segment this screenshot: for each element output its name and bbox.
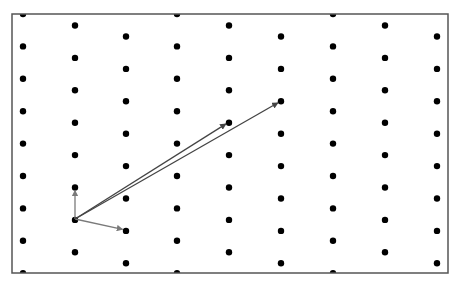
lattice-point [278,260,284,266]
lattice-point [123,66,129,72]
lattice-point [434,66,440,72]
plot-frame [12,14,448,273]
lattice-point [72,120,78,126]
lattice-point [330,108,336,114]
lattice-point [174,43,180,49]
lattice-point [330,205,336,211]
lattice-point [382,22,388,28]
lattice-point [123,163,129,169]
lattice-point [72,249,78,255]
lattice-point [174,205,180,211]
lattice-point [434,195,440,201]
lattice-point [382,217,388,223]
lattice-point [278,195,284,201]
lattice-point [330,140,336,146]
lattice-point [330,43,336,49]
lattice-point [226,87,232,93]
lattice-point [72,87,78,93]
lattice-point [226,249,232,255]
lattice-point [434,131,440,137]
lattice-point [174,238,180,244]
lattice-point [278,98,284,104]
lattice-diagram [0,0,464,286]
lattice-point [382,120,388,126]
long-vector-1-arrow [75,124,226,219]
lattice-point [278,228,284,234]
lattice-point [72,55,78,61]
lattice-point [382,55,388,61]
lattice-point [278,66,284,72]
lattice-point [226,184,232,190]
lattice-point [72,152,78,158]
lattice-point [123,260,129,266]
lattice-point [20,173,26,179]
long-vector-2-arrow [75,103,278,219]
lattice-point [434,163,440,169]
lattice-point [20,205,26,211]
basis-vector-right-arrow [75,219,123,229]
lattice-point [226,22,232,28]
lattice-point [330,76,336,82]
lattice-point [226,217,232,223]
lattice-point [123,228,129,234]
lattice-point [174,108,180,114]
lattice-point [20,238,26,244]
lattice-point [330,238,336,244]
lattice-point [123,131,129,137]
lattice-point [174,140,180,146]
lattice-point [278,131,284,137]
lattice-point [278,33,284,39]
lattice-point [174,76,180,82]
lattice-point [382,184,388,190]
lattice-point [123,98,129,104]
lattice-point [20,43,26,49]
lattice-point [226,152,232,158]
lattice-point [278,163,284,169]
lattice-point [123,33,129,39]
lattice-point [72,22,78,28]
lattice-point [72,184,78,190]
lattice-point [434,228,440,234]
lattice-point [123,195,129,201]
lattice-point [174,173,180,179]
lattice-point [20,108,26,114]
lattice-point [434,260,440,266]
lattice-point [226,55,232,61]
lattice-point [434,33,440,39]
lattice-point [226,120,232,126]
lattice-point [20,76,26,82]
lattice-point [382,152,388,158]
lattice-point [330,173,336,179]
lattice-point [20,140,26,146]
lattice-point [382,87,388,93]
lattice-point [382,249,388,255]
lattice-point [434,98,440,104]
lattice-points [20,11,440,277]
